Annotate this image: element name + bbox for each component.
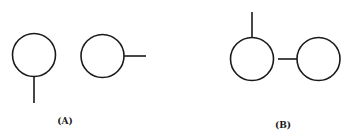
circle-with-right-stem <box>81 35 124 78</box>
circle-with-bottom-stem <box>13 34 56 77</box>
panel-a <box>13 34 147 104</box>
panel-b <box>231 12 341 81</box>
panel-a-label: (A) <box>57 116 73 126</box>
right-circle <box>297 38 340 81</box>
panel-b-label: (B) <box>275 120 291 130</box>
diagram-canvas <box>0 0 348 139</box>
circle-with-top-stem <box>231 38 274 81</box>
